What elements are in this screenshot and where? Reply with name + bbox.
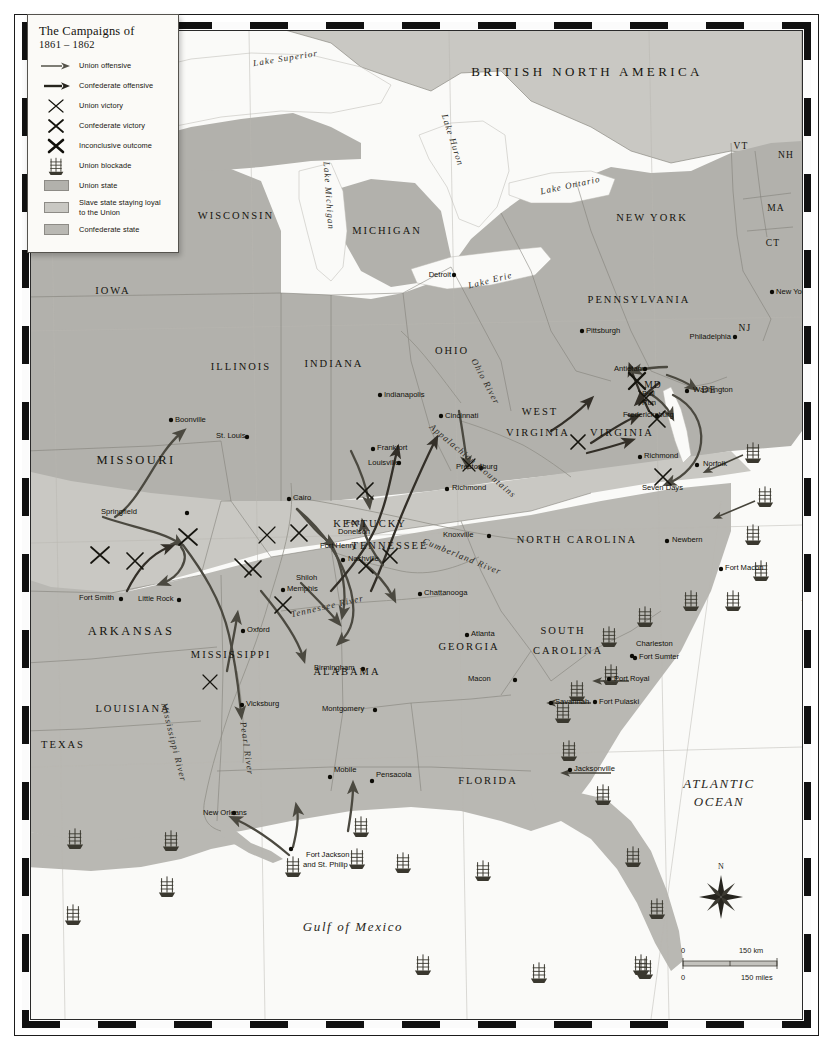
union-victory-cross-icon bbox=[39, 98, 73, 113]
city-label: Charleston bbox=[636, 639, 673, 648]
scale-top-zero: 0 bbox=[681, 946, 685, 955]
confederate-victory-cross-icon bbox=[39, 118, 73, 133]
map-frame-band-right bbox=[804, 22, 811, 1028]
blockade-ship bbox=[637, 958, 653, 979]
legend-item-inconclusive: Inconclusive outcome bbox=[39, 138, 168, 153]
city-label: Atlanta bbox=[471, 629, 495, 638]
city-label: Boonville bbox=[175, 415, 206, 424]
city-label: Richmond bbox=[452, 483, 486, 492]
state-label: MICHIGAN bbox=[352, 225, 422, 236]
city-label: New Orleans bbox=[203, 808, 247, 817]
state-label: MISSISSIPPI bbox=[191, 649, 271, 660]
city-label: Washington bbox=[693, 385, 733, 394]
legend-subtitle: 1861 – 1862 bbox=[39, 39, 168, 50]
city-label: Pittsburgh bbox=[586, 326, 620, 335]
legend-label: Union victory bbox=[79, 101, 123, 110]
state-label: ILLINOIS bbox=[211, 361, 271, 372]
ocean-label: OCEAN bbox=[694, 794, 745, 809]
blockade-ship bbox=[67, 828, 83, 849]
legend-item-union-victory: Union victory bbox=[39, 98, 168, 113]
blockade-ship bbox=[65, 904, 81, 925]
city-label: Fort Sumter bbox=[639, 652, 680, 661]
map-frame-band-bottom bbox=[22, 1021, 811, 1028]
city-label: Jacksonville bbox=[574, 764, 615, 773]
blockade-ship bbox=[725, 590, 741, 611]
state-label: INDIANA bbox=[305, 358, 364, 369]
legend-label: Union offensive bbox=[79, 61, 131, 70]
blockade-ship bbox=[633, 954, 649, 975]
state-label: TEXAS bbox=[41, 739, 85, 750]
state-label: MISSOURI bbox=[97, 453, 176, 467]
legend-item-confederate-state: Confederate state bbox=[39, 222, 168, 237]
city-label: Oxford bbox=[247, 625, 270, 634]
city-label: Vicksburg bbox=[246, 699, 279, 708]
city-label: St. Louis bbox=[216, 431, 246, 440]
city-label: New York bbox=[776, 287, 802, 296]
state-label: NH bbox=[778, 150, 794, 160]
blockade-ship bbox=[683, 590, 699, 611]
country-labels: BRITISH NORTH AMERICA bbox=[471, 64, 703, 79]
battle-label: Fort bbox=[346, 518, 360, 527]
state-label: IOWA bbox=[95, 285, 130, 296]
legend-item-union-offensive: Union offensive bbox=[39, 58, 168, 73]
blockade-ship bbox=[285, 856, 301, 877]
ocean-label: ATLANTIC bbox=[682, 776, 755, 791]
battle-label: Seven Days bbox=[642, 483, 683, 492]
state-label: VIRGINIA bbox=[590, 427, 654, 438]
city-label: Little Rock bbox=[138, 594, 174, 603]
state-label: SOUTH bbox=[540, 625, 585, 636]
city-label: Louisville bbox=[368, 458, 399, 467]
blockade-ship bbox=[745, 524, 761, 545]
border-state-swatch bbox=[39, 200, 73, 215]
blockade-ship-icon bbox=[39, 158, 73, 173]
blockade-ship bbox=[159, 876, 175, 897]
city-label: Springfield bbox=[101, 507, 137, 516]
blockade-ship bbox=[163, 830, 179, 851]
city-label: Nashville bbox=[348, 554, 379, 563]
city-label: Knoxville bbox=[443, 530, 473, 539]
state-label: OHIO bbox=[435, 345, 469, 356]
city-label: Norfolk bbox=[703, 459, 727, 468]
legend-label: Union state bbox=[79, 181, 118, 190]
country-label: BRITISH NORTH AMERICA bbox=[471, 64, 703, 79]
blockade-ship bbox=[561, 740, 577, 761]
legend-label: Inconclusive outcome bbox=[79, 141, 152, 150]
battle-label: Donelson bbox=[338, 527, 370, 536]
state-label: NORTH CAROLINA bbox=[517, 534, 637, 545]
city-label: Cairo bbox=[293, 493, 311, 502]
blockade-ship bbox=[757, 486, 773, 507]
state-label: FLORIDA bbox=[458, 775, 518, 786]
scale-top-value: 150 km bbox=[739, 946, 763, 955]
blockade-ship bbox=[595, 784, 611, 805]
legend-label: Confederate offensive bbox=[79, 81, 153, 90]
compass-north-label: N bbox=[718, 862, 724, 871]
legend-label: Confederate state bbox=[79, 225, 139, 234]
state-label: NEW YORK bbox=[616, 212, 688, 223]
legend-label: Slave state staying loyal to the Union bbox=[79, 198, 168, 217]
state-label: WISCONSIN bbox=[198, 210, 274, 221]
state-label: GEORGIA bbox=[438, 641, 499, 652]
city-label: Fort Smith bbox=[79, 593, 114, 602]
city-label: Fort Macon bbox=[725, 563, 763, 572]
state-label: PENNSYLVANIA bbox=[588, 294, 691, 305]
city-label: Indianapolis bbox=[384, 390, 425, 399]
blockade-ship bbox=[649, 898, 665, 919]
battle-label: Fort Jackson bbox=[306, 850, 349, 859]
battle-label: Bull bbox=[642, 389, 655, 398]
city-label: Richmond bbox=[644, 451, 678, 460]
legend-title: The Campaigns of bbox=[39, 24, 168, 38]
blockade-ship bbox=[353, 816, 369, 837]
state-label: LOUISIANA bbox=[95, 703, 170, 714]
legend-item-union-state: Union state bbox=[39, 178, 168, 193]
map-legend: The Campaigns of 1861 – 1862 Union offen… bbox=[27, 14, 179, 253]
inconclusive-cross-icon bbox=[39, 138, 73, 153]
blockade-ship bbox=[601, 626, 617, 647]
blockade-ship bbox=[637, 606, 653, 627]
legend-label: Confederate victory bbox=[79, 121, 145, 130]
state-label: NJ bbox=[739, 323, 752, 333]
city-label: Chattanooga bbox=[424, 588, 468, 597]
city-label: Macon bbox=[468, 674, 491, 683]
state-label: VIRGINIA bbox=[506, 427, 570, 438]
blockade-ship bbox=[745, 442, 761, 463]
legend-item-union-blockade: Union blockade bbox=[39, 158, 168, 173]
